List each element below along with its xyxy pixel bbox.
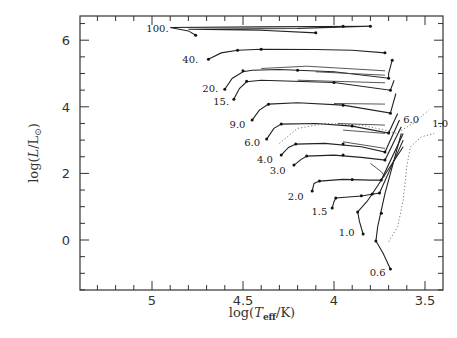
track-line — [234, 80, 394, 99]
hr-diagram-chart: 54.543.56420 6.01.0100.40.20.15.9.06.04.… — [0, 0, 457, 338]
track-marker — [296, 69, 299, 72]
mass-label: 3.0 — [270, 165, 286, 176]
track-marker — [387, 132, 390, 135]
track-marker — [362, 233, 365, 236]
mass-label: 40. — [182, 54, 198, 65]
track-marker — [265, 138, 268, 141]
track-marker — [391, 59, 394, 62]
mass-label: 100. — [146, 23, 168, 34]
y-axis-label: log(L/L⊙) — [26, 123, 43, 183]
mass-label: 4.0 — [257, 154, 273, 165]
mass-labels: 6.01.0100.40.20.15.9.06.04.03.02.01.51.0… — [146, 23, 448, 278]
mass-label: 1.0 — [339, 227, 355, 238]
track-marker — [371, 193, 374, 196]
track-loop — [316, 72, 385, 75]
track-9_0 — [251, 94, 396, 122]
track-marker — [342, 104, 345, 107]
mass-label: 6.0 — [244, 137, 260, 148]
track-100_ — [170, 25, 372, 37]
track-marker — [389, 267, 392, 270]
track-loop — [370, 163, 385, 176]
track-marker — [334, 197, 337, 200]
x-tick-label: 5 — [148, 293, 156, 308]
track-marker — [369, 25, 372, 28]
track-marker — [331, 207, 334, 210]
track-marker — [389, 112, 392, 115]
track-marker — [378, 192, 381, 195]
y-tick-label: 6 — [62, 33, 70, 48]
dotted-reference-lines — [279, 110, 434, 242]
y-tick-label: 4 — [62, 100, 70, 115]
track-marker — [383, 51, 386, 54]
track-marker — [245, 80, 248, 83]
mass-label: 0.6 — [370, 267, 386, 278]
track-marker — [333, 81, 336, 84]
mass-label: 9.0 — [230, 119, 246, 130]
track-line — [267, 114, 398, 140]
track-marker — [351, 125, 354, 128]
mass-label: 2.0 — [288, 191, 304, 202]
track-marker — [356, 211, 359, 214]
track-marker — [318, 180, 321, 183]
track-marker — [305, 155, 308, 158]
track-marker — [342, 154, 345, 157]
track-marker — [236, 49, 239, 52]
track-marker — [342, 25, 345, 28]
dotted-line-label: 6.0 — [403, 114, 419, 125]
track-marker — [280, 123, 283, 126]
track-marker — [207, 58, 210, 61]
track-marker — [280, 154, 283, 157]
track-6_0 — [265, 114, 398, 141]
track-loop — [334, 104, 385, 105]
track-marker — [383, 151, 386, 154]
x-tick-label: 3.5 — [415, 293, 436, 308]
track-20_ — [223, 59, 393, 91]
y-tick-label: 2 — [62, 166, 70, 181]
track-marker — [342, 143, 345, 146]
track-marker — [383, 159, 386, 162]
track-1_0 — [356, 147, 403, 236]
track-1_5 — [331, 140, 404, 209]
x-axis-label: log(Teff/K) — [229, 305, 295, 322]
mass-label: 15. — [213, 96, 229, 107]
track-line — [170, 26, 370, 35]
track-marker — [380, 212, 383, 215]
track-marker — [251, 119, 254, 122]
track-loop — [338, 124, 385, 126]
track-marker — [387, 77, 390, 80]
track-marker — [311, 190, 314, 193]
track-marker — [294, 143, 297, 146]
track-marker — [292, 164, 295, 167]
dotted-line-label: 1.0 — [432, 118, 448, 129]
evolutionary-tracks — [170, 25, 403, 271]
x-tick-label: 4 — [330, 293, 338, 308]
track-marker — [360, 194, 363, 197]
mass-label: 20. — [202, 83, 218, 94]
track-marker — [351, 178, 354, 181]
track-marker — [223, 88, 226, 91]
y-tick-label: 0 — [62, 233, 70, 248]
track-marker — [314, 31, 317, 34]
track-40_ — [207, 48, 387, 61]
track-marker — [242, 69, 245, 72]
track-line — [252, 94, 396, 121]
track-marker — [232, 98, 235, 101]
track-marker — [389, 89, 392, 92]
track-line — [332, 140, 403, 208]
track-15_ — [232, 80, 394, 101]
track-marker — [260, 48, 263, 51]
track-loop — [261, 66, 385, 71]
track-line — [208, 49, 385, 59]
track-marker — [267, 103, 270, 106]
track-marker — [194, 34, 197, 37]
track-marker — [374, 239, 377, 242]
mass-label: 1.5 — [311, 206, 327, 217]
